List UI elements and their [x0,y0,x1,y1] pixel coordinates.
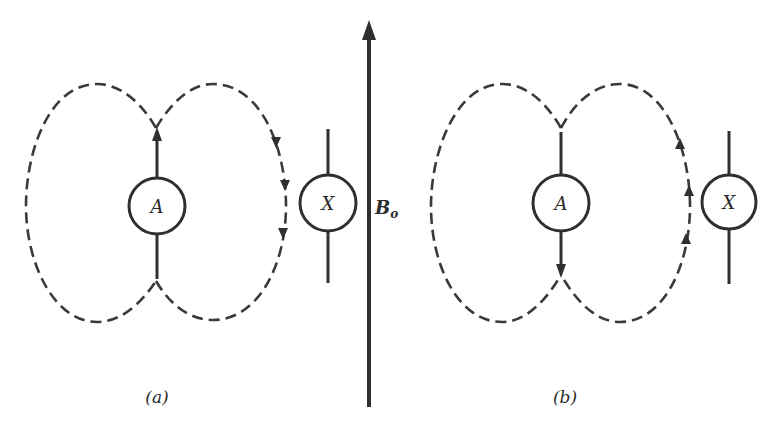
panel-b-field-up-arrow-icon [684,185,694,196]
panel-b-target-label: X [721,192,737,213]
panel-b-caption: (b) [553,387,577,407]
panel-a-caption: (a) [145,387,168,407]
panel-b: A X (b) [431,84,756,407]
panel-a-target-label: X [320,193,336,214]
field-label-subscript: o [390,207,398,221]
panel-b-field-up-arrow-icon [681,233,691,244]
panel-b-source-label: A [553,193,568,214]
panel-a-dipole-up-arrow-icon [152,127,162,141]
external-field-up-arrow-icon [362,20,376,40]
panel-b-field-up-arrow-icon [675,138,685,149]
panel-a-field-down-arrow-icon [280,180,290,191]
dipole-field-figure: A X (a) Bo A [0,0,778,438]
external-field: Bo [362,20,398,407]
panel-a: A X (a) [26,84,356,407]
panel-a-field-down-arrow-icon [271,137,281,148]
panel-a-field-down-arrow-icon [278,228,288,239]
panel-a-source-label: A [149,196,164,217]
field-label-main: B [374,197,390,218]
external-field-label: Bo [374,197,398,221]
panel-b-dipole-down-arrow-icon [556,264,566,278]
figure-canvas: A X (a) Bo A [0,0,778,438]
